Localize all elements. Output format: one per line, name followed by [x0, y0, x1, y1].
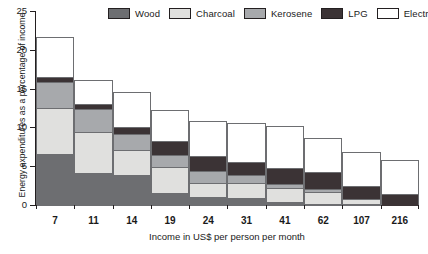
bar-column-7[interactable]: 7 [36, 11, 74, 205]
x-tick [74, 205, 75, 209]
bar-segment-charcoal [227, 183, 265, 199]
y-tick: 15 [30, 89, 35, 90]
bar-segment-electricity [266, 126, 304, 169]
bar-segment-electricity [151, 110, 189, 142]
bar-segment-electricity [74, 80, 112, 105]
y-tick-label: 25 [16, 5, 27, 16]
bar-segment-kerosene [36, 82, 74, 110]
bar-segment-lpg [151, 141, 189, 157]
x-tick [266, 205, 267, 209]
bar-segment-electricity [381, 160, 419, 195]
bar-segment-electricity [342, 152, 380, 187]
bar-column-31[interactable]: 31 [227, 11, 265, 205]
x-tick [342, 205, 343, 209]
x-tick-label: 14 [113, 215, 151, 226]
y-tick-label: 10 [16, 121, 27, 132]
y-tick: 25 [30, 11, 35, 12]
bar-segment-charcoal [113, 150, 151, 176]
bar-segment-electricity [227, 123, 265, 163]
bar-column-14[interactable]: 14 [113, 11, 151, 205]
bar-segment-charcoal [36, 108, 74, 155]
x-tick [189, 205, 190, 209]
bar-segment-lpg [227, 162, 265, 177]
bar-segment-wood [36, 154, 74, 206]
bar-segment-kerosene [113, 134, 151, 152]
x-tick-label: 107 [342, 215, 380, 226]
plot-area: 0510152025 711141924314162107216 [35, 11, 419, 205]
x-tick-label: 7 [36, 215, 74, 226]
bar-segment-kerosene [74, 109, 112, 132]
x-axis-title: Income in US$ per person per month [35, 231, 419, 242]
x-tick-label: 24 [189, 215, 227, 226]
x-tick-label: 62 [304, 215, 342, 226]
x-tick [113, 205, 114, 209]
bar-segment-electricity [304, 138, 342, 173]
bar-segment-electricity [113, 92, 151, 128]
bar-segment-lpg [342, 186, 380, 200]
bar-column-107[interactable]: 107 [342, 11, 380, 205]
bar-segment-wood [189, 197, 227, 206]
x-tick [227, 205, 228, 209]
chart-root: WoodCharcoalKeroseneLPGElectricity Energ… [0, 0, 428, 254]
x-tick-end [418, 205, 419, 209]
bar-series-group: 711141924314162107216 [36, 11, 419, 205]
y-tick: 5 [30, 166, 35, 167]
x-tick [151, 205, 152, 209]
bar-segment-wood [304, 204, 342, 206]
x-tick-label: 11 [74, 215, 112, 226]
bar-segment-wood [342, 204, 380, 206]
bar-segment-electricity [189, 121, 227, 157]
bar-column-11[interactable]: 11 [74, 11, 112, 205]
y-tick-label: 0 [22, 199, 27, 210]
y-tick: 0 [30, 205, 35, 206]
bar-segment-charcoal [74, 132, 112, 174]
bar-segment-lpg [304, 172, 342, 191]
bar-segment-charcoal [189, 183, 227, 198]
x-tick [381, 205, 382, 209]
y-tick: 20 [30, 50, 35, 51]
y-axis-title: Energy expenditures as a percentage of i… [17, 5, 27, 205]
y-tick: 10 [30, 127, 35, 128]
bar-segment-wood [113, 175, 151, 206]
bar-segment-lpg [381, 194, 419, 206]
bar-segment-wood [74, 173, 112, 206]
bar-column-216[interactable]: 216 [381, 11, 419, 205]
bar-segment-wood [227, 198, 265, 206]
x-tick [304, 205, 305, 209]
bar-column-24[interactable]: 24 [189, 11, 227, 205]
bar-segment-lpg [266, 168, 304, 185]
x-tick-label: 216 [381, 215, 419, 226]
bar-segment-lpg [189, 156, 227, 172]
bar-segment-wood [151, 193, 189, 206]
bar-segment-charcoal [266, 188, 304, 203]
x-tick-label: 41 [266, 215, 304, 226]
x-tick [36, 205, 37, 209]
bar-segment-wood [266, 202, 304, 206]
x-tick-label: 31 [227, 215, 265, 226]
y-tick-label: 5 [22, 160, 27, 171]
bar-segment-electricity [36, 37, 74, 78]
y-tick-label: 15 [16, 83, 27, 94]
bar-column-19[interactable]: 19 [151, 11, 189, 205]
bar-segment-charcoal [151, 167, 189, 194]
bar-column-62[interactable]: 62 [304, 11, 342, 205]
bar-column-41[interactable]: 41 [266, 11, 304, 205]
y-tick-label: 20 [16, 44, 27, 55]
x-tick-label: 19 [151, 215, 189, 226]
